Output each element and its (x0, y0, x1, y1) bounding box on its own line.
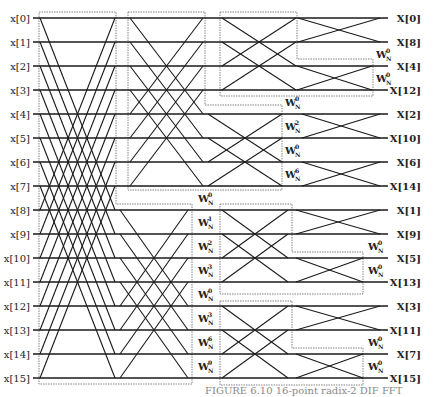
svg-text:N: N (208, 319, 214, 326)
stage2-upper-box (128, 12, 282, 190)
svg-text:0: 0 (378, 359, 382, 366)
twiddle-factor: W0N (367, 239, 384, 254)
input-label: x[9] (10, 229, 30, 240)
twiddle-factor: W0N (367, 359, 384, 374)
figure-caption: FIGURE 6.10 16-point radix-2 DIF FFT (205, 385, 403, 396)
output-label: X[10] (390, 133, 421, 144)
twiddle-factor: W0N (375, 71, 392, 86)
input-label: x[10] (4, 253, 30, 264)
svg-text:1: 1 (208, 215, 212, 222)
twiddle-factor: W6N (284, 167, 301, 182)
input-label: x[13] (4, 325, 30, 336)
svg-text:N: N (386, 79, 392, 86)
svg-text:0: 0 (295, 143, 299, 150)
input-label: x[15] (4, 373, 30, 384)
svg-text:N: N (208, 247, 214, 254)
svg-text:N: N (378, 367, 384, 374)
svg-text:N: N (208, 223, 214, 230)
output-label: X[6] (397, 157, 421, 168)
output-label: X[4] (397, 61, 421, 72)
output-label: X[3] (397, 301, 421, 312)
input-label: x[5] (10, 133, 30, 144)
twiddle-factor: W0N (375, 47, 392, 62)
twiddle-factor: W0N (367, 263, 384, 278)
output-label: X[7] (397, 349, 421, 360)
svg-text:0: 0 (378, 263, 382, 270)
input-labels: x[0]x[1]x[2]x[3]x[4]x[5]x[6]x[7]x[8]x[9]… (4, 13, 30, 384)
twiddle-factor: W2N (284, 119, 301, 134)
svg-text:N: N (378, 271, 384, 278)
output-label: X[9] (397, 229, 421, 240)
input-label: x[2] (10, 61, 30, 72)
svg-text:0: 0 (295, 95, 299, 102)
svg-text:0: 0 (208, 191, 212, 198)
input-label: x[0] (10, 13, 30, 24)
output-label: X[8] (397, 37, 421, 48)
svg-text:3: 3 (208, 263, 212, 270)
svg-text:N: N (378, 247, 384, 254)
output-label: X[12] (390, 85, 421, 96)
svg-text:N: N (386, 55, 392, 62)
output-label: X[0] (397, 13, 421, 24)
twiddle-factor: W0N (367, 335, 384, 350)
svg-text:N: N (295, 127, 301, 134)
fft-butterfly-diagram: x[0]x[1]x[2]x[3]x[4]x[5]x[6]x[7]x[8]x[9]… (0, 0, 433, 397)
output-label: X[14] (390, 181, 421, 192)
output-label: X[5] (397, 253, 421, 264)
twiddle-factor: W1N (197, 215, 214, 230)
input-label: x[8] (10, 205, 30, 216)
twiddle-factor: W6N (197, 335, 214, 350)
svg-text:N: N (208, 367, 214, 374)
svg-text:N: N (295, 175, 301, 182)
output-label: X[13] (390, 277, 421, 288)
svg-text:0: 0 (378, 335, 382, 342)
twiddle-factor: W0N (284, 143, 301, 158)
svg-text:0: 0 (386, 47, 390, 54)
input-label: x[4] (10, 109, 30, 120)
input-label: x[1] (10, 37, 30, 48)
input-label: x[7] (10, 181, 30, 192)
input-label: x[3] (10, 85, 30, 96)
stage3-box-rows8-11 (220, 204, 363, 294)
svg-text:6: 6 (208, 335, 212, 342)
output-label: X[2] (397, 109, 421, 120)
svg-text:N: N (295, 151, 301, 158)
input-label: x[6] (10, 157, 30, 168)
svg-text:0: 0 (378, 239, 382, 246)
twiddle-factor: W9N (197, 359, 214, 374)
svg-text:2: 2 (295, 119, 299, 126)
svg-text:3: 3 (208, 311, 212, 318)
output-labels: X[0]X[8]X[4]X[12]X[2]X[10]X[6]X[14]X[1]X… (390, 13, 421, 384)
svg-text:N: N (295, 103, 301, 110)
svg-text:6: 6 (295, 167, 299, 174)
svg-text:N: N (378, 343, 384, 350)
output-label: X[1] (397, 205, 421, 216)
twiddle-factor: W3N (197, 263, 214, 278)
twiddle-factor: W2N (197, 239, 214, 254)
svg-text:9: 9 (208, 359, 212, 366)
svg-text:N: N (208, 295, 214, 302)
input-label: x[12] (4, 301, 30, 312)
svg-text:N: N (208, 271, 214, 278)
input-label: x[14] (4, 349, 30, 360)
twiddle-factor: W0N (197, 287, 214, 302)
svg-text:N: N (208, 199, 214, 206)
output-label: X[11] (390, 325, 421, 336)
svg-text:N: N (208, 343, 214, 350)
stage3-box-rows12-15 (220, 301, 363, 385)
twiddle-factor: W0N (197, 191, 214, 206)
stage1-box (39, 12, 192, 384)
svg-text:2: 2 (208, 239, 212, 246)
twiddle-factor: W0N (284, 95, 301, 110)
svg-text:0: 0 (386, 71, 390, 78)
svg-text:0: 0 (208, 287, 212, 294)
twiddle-factor: W3N (197, 311, 214, 326)
input-label: x[11] (4, 277, 30, 288)
output-label: X[15] (390, 373, 421, 384)
